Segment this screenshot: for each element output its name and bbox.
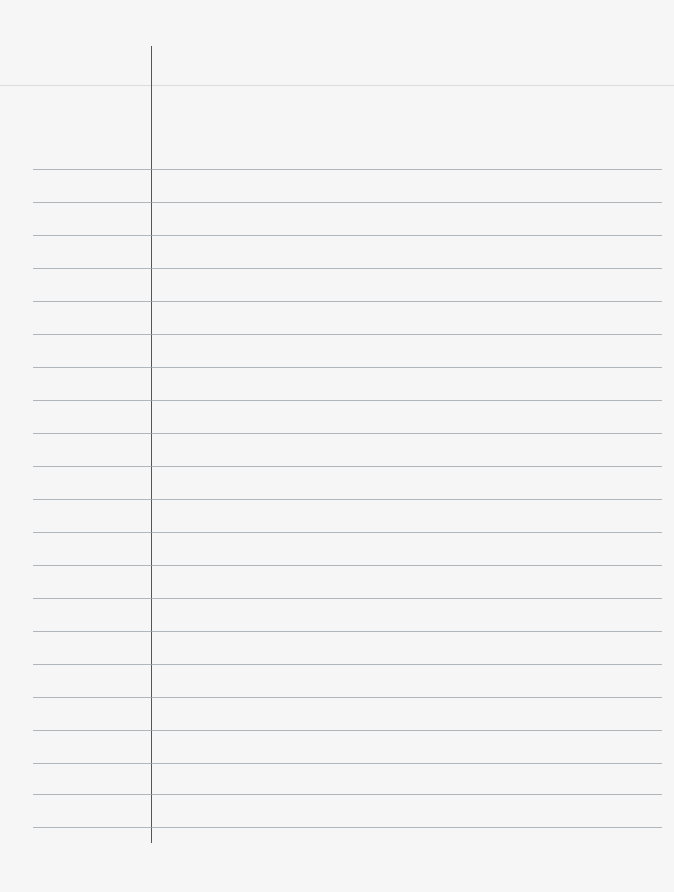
ruled-line bbox=[33, 301, 662, 302]
lined-paper-page bbox=[0, 0, 674, 892]
ruled-line bbox=[33, 565, 662, 566]
ruled-line bbox=[33, 367, 662, 368]
ruled-line bbox=[33, 268, 662, 269]
ruled-line bbox=[33, 400, 662, 401]
ruled-line bbox=[33, 664, 662, 665]
ruled-line bbox=[33, 169, 662, 170]
ruled-line bbox=[33, 532, 662, 533]
ruled-line bbox=[33, 334, 662, 335]
ruled-line bbox=[33, 631, 662, 632]
ruled-line bbox=[33, 598, 662, 599]
ruled-line bbox=[33, 499, 662, 500]
ruled-line bbox=[33, 235, 662, 236]
ruled-line bbox=[33, 827, 662, 828]
ruled-line bbox=[33, 794, 662, 795]
ruled-line bbox=[33, 433, 662, 434]
ruled-line bbox=[33, 697, 662, 698]
ruled-line bbox=[33, 466, 662, 467]
ruled-line bbox=[33, 763, 662, 764]
ruled-line bbox=[33, 202, 662, 203]
margin-line bbox=[151, 46, 152, 843]
ruled-line bbox=[33, 730, 662, 731]
header-line bbox=[0, 85, 674, 86]
